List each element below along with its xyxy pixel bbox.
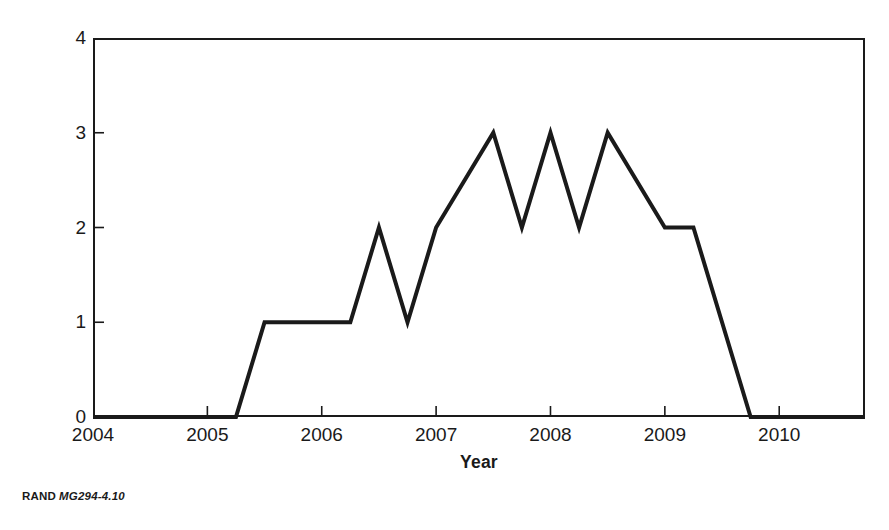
x-tick-label: 2008 (505, 423, 595, 447)
data-series-line (93, 133, 865, 417)
x-tick-label: 2007 (391, 423, 481, 447)
y-tick-label: 3 (50, 123, 86, 142)
x-axis-title: Year (93, 452, 865, 473)
tick-marks-group (93, 133, 779, 417)
x-tick-label: 2006 (277, 423, 367, 447)
chart-canvas (93, 38, 865, 417)
figure-credit: RANDMG294-4.10 (22, 490, 125, 502)
y-axis-tick-labels: 01234 (42, 38, 86, 417)
y-tick-label: 1 (50, 312, 86, 331)
credit-document-id: MG294-4.10 (59, 490, 125, 502)
y-tick-label: 2 (50, 218, 86, 237)
x-tick-label: 2005 (162, 423, 252, 447)
x-tick-label: 2004 (48, 423, 138, 447)
credit-organization: RAND (22, 490, 56, 502)
x-tick-label: 2010 (734, 423, 824, 447)
plot-area (93, 38, 865, 417)
figure-container: 01234 Required capacity 2004200520062007… (0, 0, 889, 530)
y-tick-label: 4 (50, 28, 86, 47)
x-tick-label: 2009 (620, 423, 710, 447)
x-axis-tick-labels: 2004200520062007200820092010 (93, 423, 865, 449)
